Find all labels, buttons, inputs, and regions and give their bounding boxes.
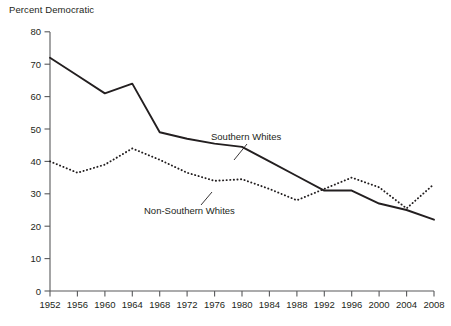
annotation-southern-whites: Southern Whites <box>211 131 281 160</box>
y-tick-label-40: 40 <box>30 156 41 167</box>
x-tick-label-1972: 1972 <box>177 299 198 310</box>
x-axis: 1952 1956 1960 1964 1968 1972 1976 1980 … <box>39 291 444 310</box>
x-tick-label-1960: 1960 <box>94 299 115 310</box>
chart-container: Percent Democratic 0 10 20 30 40 <box>0 0 451 326</box>
x-tick-label-1992: 1992 <box>314 299 335 310</box>
leader-line-non-southern-whites <box>201 192 212 205</box>
y-tick-label-70: 70 <box>30 59 41 70</box>
x-tick-label-1952: 1952 <box>39 299 60 310</box>
x-tick-label-2008: 2008 <box>423 299 444 310</box>
x-tick-label-1976: 1976 <box>204 299 225 310</box>
x-tick-label-2000: 2000 <box>369 299 390 310</box>
annotation-non-southern-whites: Non-Southern Whites <box>144 192 235 216</box>
annotation-label-non-southern-whites: Non-Southern Whites <box>144 205 235 216</box>
line-chart-plot: 0 10 20 30 40 50 60 70 80 <box>0 0 451 326</box>
x-tick-label-1984: 1984 <box>259 299 280 310</box>
x-tick-label-1964: 1964 <box>122 299 143 310</box>
x-tick-label-1956: 1956 <box>67 299 88 310</box>
x-tick-label-1968: 1968 <box>149 299 170 310</box>
annotation-label-southern-whites: Southern Whites <box>211 131 281 142</box>
series-line-non-southern-whites <box>50 148 434 208</box>
y-tick-label-60: 60 <box>30 91 41 102</box>
x-tick-label-1980: 1980 <box>231 299 252 310</box>
y-tick-label-80: 80 <box>30 26 41 37</box>
y-axis-labels: 0 10 20 30 40 50 60 70 80 <box>30 26 41 296</box>
y-tick-label-20: 20 <box>30 221 41 232</box>
y-tick-label-0: 0 <box>36 286 41 297</box>
x-axis-ticks <box>50 291 434 297</box>
y-axis: 0 10 20 30 40 50 60 70 80 <box>30 26 50 296</box>
x-tick-label-1988: 1988 <box>286 299 307 310</box>
y-tick-label-50: 50 <box>30 124 41 135</box>
x-axis-labels: 1952 1956 1960 1964 1968 1972 1976 1980 … <box>39 299 444 310</box>
y-tick-label-10: 10 <box>30 253 41 264</box>
x-tick-label-1996: 1996 <box>341 299 362 310</box>
y-tick-label-30: 30 <box>30 188 41 199</box>
x-tick-label-2004: 2004 <box>396 299 417 310</box>
